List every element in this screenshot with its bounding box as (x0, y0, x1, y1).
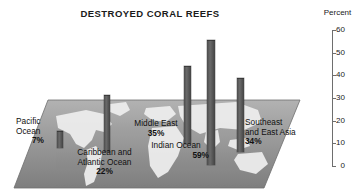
label-middle-east: Middle East 35% (125, 119, 187, 138)
bar-cap (237, 78, 244, 79)
axis-tick-label: 50 (322, 48, 345, 57)
label-value: 22% (61, 167, 148, 177)
label-caribbean-atlantic-ocean: Caribbean and Atlantic Ocean 22% (61, 148, 148, 177)
chart-title: DESTROYED CORAL REEFS (0, 8, 300, 19)
axis-tick: 60 (332, 30, 336, 31)
axis-tick: 20 (332, 121, 336, 122)
bar-southeast-east-asia (237, 78, 244, 152)
axis-tick-label: 30 (322, 93, 345, 102)
axis-tick: 0 (332, 166, 336, 167)
label-value: 7% (16, 136, 60, 146)
label-value: 59% (140, 151, 212, 161)
axis-tick-label: 60 (322, 25, 345, 34)
label-southeast-east-asia: Southeast and East Asia 34% (245, 118, 311, 147)
bar-cap (207, 40, 215, 41)
axis-title-percent: Percent (316, 8, 359, 17)
axis-tick: 10 (332, 143, 336, 144)
bar-cap (184, 66, 191, 67)
axis-tick: 30 (332, 98, 336, 99)
label-pacific-ocean: Pacific Ocean 7% (16, 117, 60, 146)
label-indian-ocean: Indian Ocean 59% (140, 141, 212, 160)
axis-tick-label: 20 (322, 116, 345, 125)
bar-caribbean-atlantic-ocean (104, 95, 110, 152)
y-axis: 60 50 40 30 20 10 0 (316, 24, 359, 176)
label-value: 35% (125, 129, 187, 139)
chart-canvas: DESTROYED CORAL REEFS (0, 0, 359, 196)
label-value: 34% (245, 137, 311, 147)
axis-tick: 50 (332, 53, 336, 54)
axis-tick-label: 10 (322, 138, 345, 147)
axis-tick-label: 0 (322, 161, 345, 170)
bar-cap (104, 95, 110, 96)
axis-tick: 40 (332, 75, 336, 76)
axis-tick-label: 40 (322, 70, 345, 79)
